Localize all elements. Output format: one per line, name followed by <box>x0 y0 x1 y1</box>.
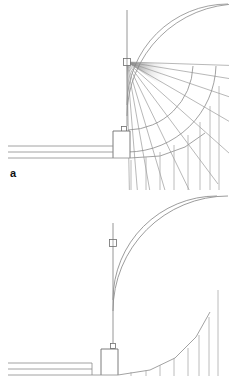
panel-a-drawing <box>0 0 229 190</box>
panel-b-vertical-drops <box>131 290 218 376</box>
panel-b-arc-inner <box>113 196 217 300</box>
panel-a-rails <box>8 146 130 158</box>
panel-b-deck-line <box>118 312 210 375</box>
panel-b-drawing <box>0 190 229 376</box>
panel-a-sensor-box <box>124 59 131 66</box>
panel-b: b <box>0 190 229 376</box>
panel-a-arc-inner <box>127 4 228 105</box>
panel-a-arc-outer <box>127 4 229 116</box>
panel-b-sensor-box <box>110 240 117 247</box>
figure-container: a <box>0 0 229 376</box>
panel-b-pedestal-cap <box>111 344 116 349</box>
panel-a-pedestal <box>113 131 130 158</box>
panel-a-fan-rays <box>127 62 229 190</box>
panel-a-label: a <box>10 168 16 179</box>
panel-a: a <box>0 0 229 190</box>
panel-b-pedestal <box>101 349 118 375</box>
panel-b-arc-outer <box>113 196 228 311</box>
